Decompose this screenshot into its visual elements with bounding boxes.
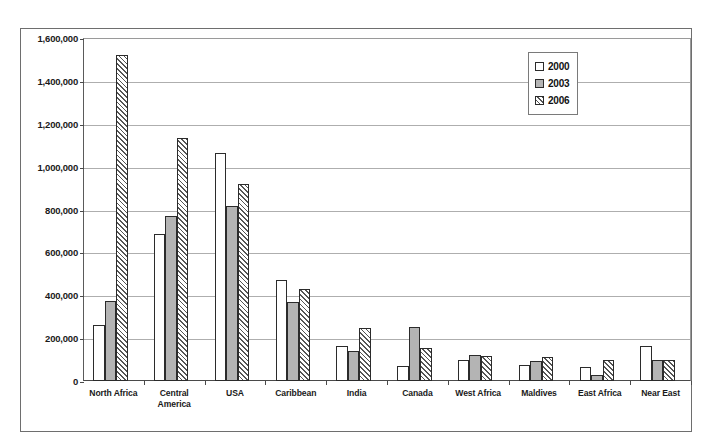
y-axis: 0200,000400,000600,000800,0001,000,0001,… (20, 38, 78, 381)
gray-swatch (535, 79, 544, 88)
y-axis-tick-mark (80, 296, 84, 297)
legend-item: 2006 (535, 92, 569, 109)
y-axis-tick-label: 800,000 (45, 204, 78, 215)
gridline (84, 296, 690, 297)
y-axis-tick-mark (80, 39, 84, 40)
x-axis-category-labels: North AfricaCentral AmericaUSACaribbeanI… (83, 388, 691, 426)
y-axis-tick-label: 1,200,000 (38, 118, 78, 129)
y-axis-tick-label: 1,000,000 (38, 161, 78, 172)
legend-item: 2003 (535, 75, 569, 92)
y-axis-tick-mark (80, 125, 84, 126)
x-axis-tick-mark (448, 381, 449, 385)
x-axis-tick-mark (387, 381, 388, 385)
x-axis-category-label: West Africa (448, 388, 509, 399)
y-axis-tick-label: 1,600,000 (38, 33, 78, 44)
y-axis-tick-label: 1,400,000 (38, 75, 78, 86)
gridline (84, 82, 690, 83)
x-axis-tick-mark (509, 381, 510, 385)
gridline (84, 253, 690, 254)
x-axis-ticks (83, 381, 691, 386)
x-axis-tick-mark (326, 381, 327, 385)
x-axis-tick-mark (630, 381, 631, 385)
white-swatch (535, 62, 544, 71)
x-axis-category-label: East Africa (569, 388, 630, 399)
y-axis-tick-mark (80, 339, 84, 340)
bar-chart-figure: 0200,000400,000600,000800,0001,000,0001,… (0, 0, 714, 446)
x-axis-tick-mark (205, 381, 206, 385)
gridline (84, 168, 690, 169)
x-axis-category-label: Central America (144, 388, 205, 410)
x-axis-category-label: Maldives (509, 388, 570, 399)
y-axis-tick-mark (80, 253, 84, 254)
x-axis-tick-mark (144, 381, 145, 385)
y-axis-tick-mark (80, 82, 84, 83)
x-axis-category-label: India (326, 388, 387, 399)
y-axis-tick-label: 0 (73, 376, 78, 387)
x-axis-tick-mark (691, 381, 692, 385)
chart-legend: 200020032006 (528, 52, 578, 115)
y-axis-tick-label: 400,000 (45, 290, 78, 301)
x-axis-category-label: Canada (387, 388, 448, 399)
y-axis-tick-label: 600,000 (45, 247, 78, 258)
legend-item-label: 2000 (548, 61, 569, 72)
gridline (84, 125, 690, 126)
x-axis-category-label: Near East (630, 388, 691, 399)
x-axis-category-label: USA (205, 388, 266, 399)
gridline (84, 339, 690, 340)
legend-item-label: 2006 (548, 95, 569, 106)
x-axis-tick-mark (569, 381, 570, 385)
legend-item: 2000 (535, 58, 569, 75)
y-axis-tick-label: 200,000 (45, 333, 78, 344)
gridline (84, 211, 690, 212)
y-axis-tick-mark (80, 211, 84, 212)
y-axis-tick-mark (80, 168, 84, 169)
legend-item-label: 2003 (548, 78, 569, 89)
plot-area (83, 38, 691, 381)
x-axis-category-label: North Africa (83, 388, 144, 399)
x-axis-tick-mark (265, 381, 266, 385)
x-axis-category-label: Caribbean (265, 388, 326, 399)
hatched-swatch (535, 96, 544, 105)
